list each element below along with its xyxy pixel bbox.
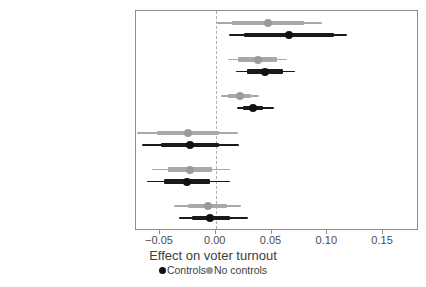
- x-axis-tick-label: 0.10: [316, 234, 337, 246]
- x-axis-tick-label: 0.00: [204, 234, 225, 246]
- x-axis-tick-label: 0.15: [371, 234, 392, 246]
- x-axis-label: Effect on voter turnout: [0, 248, 426, 263]
- estimate-controls: [136, 173, 417, 190]
- legend-item-no-controls[interactable]: No controls: [206, 264, 267, 276]
- estimate-controls: [136, 136, 417, 153]
- x-axis-tick-label: −0.05: [145, 234, 173, 246]
- estimate-controls: [136, 100, 417, 117]
- point-estimate-marker: [206, 214, 214, 222]
- legend-item-controls[interactable]: Controls: [159, 264, 206, 276]
- estimate-row: Election day registration: [136, 122, 417, 156]
- point-estimate-marker: [249, 104, 257, 112]
- point-estimate-marker: [186, 141, 194, 149]
- coefficient-plot-figure: Same-day registrationPreregistrationOnli…: [0, 0, 426, 287]
- estimate-controls: [136, 63, 417, 80]
- legend: Controls No controls: [0, 264, 426, 276]
- estimate-controls: [136, 26, 417, 43]
- plot-panel: Same-day registrationPreregistrationOnli…: [135, 10, 418, 230]
- point-estimate-marker: [261, 68, 269, 76]
- point-estimate-marker: [285, 31, 293, 39]
- filled-circle-icon: [159, 267, 166, 274]
- estimate-row: Preregistration: [136, 49, 417, 83]
- estimate-controls: [136, 210, 417, 227]
- x-axis-tick-label: 0.05: [260, 234, 281, 246]
- estimate-row: Same-day registration: [136, 12, 417, 46]
- estimate-row: Early voting: [136, 159, 417, 193]
- caption-sliver: [60, 279, 360, 287]
- estimate-row: Online registration: [136, 86, 417, 120]
- legend-label: No controls: [214, 264, 267, 276]
- estimate-row: Absentee voting: [136, 196, 417, 230]
- filled-circle-icon: [206, 267, 213, 274]
- legend-label: Controls: [167, 264, 206, 276]
- point-estimate-marker: [183, 178, 191, 186]
